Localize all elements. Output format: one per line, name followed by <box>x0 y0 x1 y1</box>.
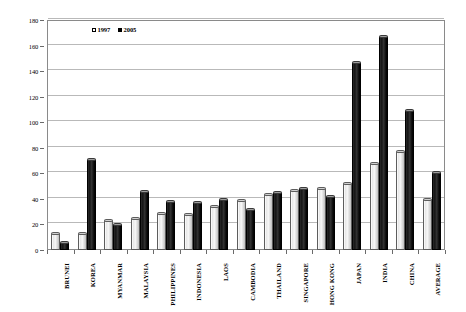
bar-cap <box>219 198 228 201</box>
bar-cap <box>246 208 255 211</box>
bar-body <box>396 152 405 250</box>
bar-body <box>219 200 228 250</box>
x-axis-tick-mark <box>47 250 48 254</box>
bar-1997 <box>370 162 379 250</box>
x-axis-tick-label-text: MYANMAR <box>116 263 123 299</box>
bar-2005 <box>352 61 361 250</box>
bar-group <box>259 20 286 250</box>
x-axis-tick-label-text: CAMBODIA <box>249 263 256 301</box>
bar-body <box>343 184 352 250</box>
bar-group <box>392 20 419 250</box>
bar-body <box>140 192 149 250</box>
x-axis-tick-mark <box>286 250 287 254</box>
bar-2005 <box>60 241 69 250</box>
bar-2005 <box>166 200 175 250</box>
x-axis-tick-label-text: BRUNEI <box>63 263 70 289</box>
bar-group <box>418 20 445 250</box>
bar-2005 <box>87 158 96 250</box>
bar-body <box>193 203 202 250</box>
bar-2005 <box>379 35 388 250</box>
x-axis-tick-mark <box>180 250 181 254</box>
y-axis-tick-label: 100 <box>29 119 38 126</box>
bar-cap <box>352 61 361 64</box>
bar-body <box>326 197 335 250</box>
bar-cap <box>290 189 299 192</box>
x-axis-tick-label-text: THAILAND <box>275 263 282 299</box>
bar-2005 <box>246 208 255 250</box>
y-axis-tick-mark <box>40 122 44 123</box>
y-axis-tick-mark <box>40 148 44 149</box>
x-axis-tick-mark <box>312 250 313 254</box>
bar-1997 <box>264 193 273 251</box>
bar-group <box>312 20 339 250</box>
x-axis-tick-mark <box>418 250 419 254</box>
bar-1997 <box>343 182 352 250</box>
x-axis-tick-mark <box>127 250 128 254</box>
bar-group <box>365 20 392 250</box>
bar-body <box>405 111 414 250</box>
y-axis-tick-mark <box>40 199 44 200</box>
x-axis-tick-label-text: HONG KONG <box>328 263 335 305</box>
bar-1997 <box>423 198 432 250</box>
legend-label: 2005 <box>124 26 137 34</box>
y-axis-tick-mark <box>40 71 44 72</box>
bar-body <box>299 189 308 250</box>
bar-1997 <box>131 217 140 250</box>
legend-swatch-2005 <box>118 28 122 32</box>
y-axis-tick-mark <box>40 46 44 47</box>
legend-item: 1997 <box>92 26 110 34</box>
x-axis-tick-mark <box>365 250 366 254</box>
bar-cap <box>184 213 193 216</box>
bar-body <box>104 221 113 250</box>
bar-body <box>60 243 69 250</box>
bar-cap <box>264 193 273 196</box>
x-axis-tick-label-text: SINGAPORE <box>302 263 309 303</box>
bar-body <box>131 219 140 250</box>
gridline <box>48 18 444 19</box>
legend-item: 2005 <box>118 26 136 34</box>
bar-1997 <box>237 199 246 250</box>
bar-body <box>78 234 87 250</box>
bar-cap <box>432 171 441 174</box>
bar-body <box>157 214 166 250</box>
y-axis: 020406080100120140160180 <box>0 0 47 270</box>
bar-group <box>127 20 154 250</box>
y-axis-tick-mark <box>40 173 44 174</box>
y-axis-tick-label: 120 <box>29 93 38 100</box>
bar-cap <box>166 200 175 203</box>
x-axis-tick-mark <box>233 250 234 254</box>
bar-cap <box>113 223 122 226</box>
y-axis-tick-label: 80 <box>32 144 38 151</box>
y-axis-tick-label: 20 <box>32 221 38 228</box>
bar-body <box>87 160 96 250</box>
bar-body <box>423 200 432 250</box>
bar-group <box>339 20 366 250</box>
bar-2005 <box>405 109 414 250</box>
x-axis-tick-mark <box>153 250 154 254</box>
bar-cap <box>317 187 326 190</box>
bar-cap <box>140 190 149 193</box>
y-axis-tick-mark <box>40 97 44 98</box>
bar-2005 <box>193 201 202 250</box>
x-axis-tick-label-text: PHILIPPINES <box>169 263 176 306</box>
x-axis-tick-label-text: CHINA <box>408 263 415 285</box>
bar-body <box>432 173 441 250</box>
legend-swatch-1997 <box>92 28 96 32</box>
x-axis-tick-mark <box>392 250 393 254</box>
y-axis-tick-mark <box>40 224 44 225</box>
bar-1997 <box>51 232 60 250</box>
x-axis-tick-mark <box>445 250 446 254</box>
bar-body <box>113 225 122 250</box>
bar-2005 <box>140 190 149 250</box>
bar-cap <box>60 241 69 244</box>
x-axis-tick-mark <box>259 250 260 254</box>
bar-2005 <box>299 187 308 250</box>
bar-group <box>233 20 260 250</box>
y-axis-tick-mark <box>40 20 44 21</box>
x-axis-tick-label-text: AVERAGE <box>434 263 441 295</box>
bar-2005 <box>219 198 228 250</box>
bar-2005 <box>432 171 441 250</box>
bar-body <box>210 207 219 250</box>
y-axis-tick-label: 40 <box>32 195 38 202</box>
bar-group <box>286 20 313 250</box>
